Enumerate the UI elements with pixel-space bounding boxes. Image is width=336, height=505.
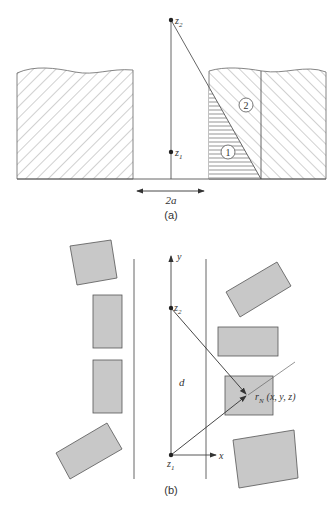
region-1-marker: 1 (221, 145, 235, 159)
block-left-bottom-tilted (56, 423, 122, 479)
caption-a: (a) (164, 209, 177, 221)
block-left-upper (93, 295, 122, 348)
block-left-top-tilted (70, 240, 117, 285)
y-axis-label: y (176, 251, 182, 262)
region-2-marker: 2 (239, 98, 253, 112)
point-z2-a (169, 18, 173, 22)
block-left-lower (93, 360, 122, 413)
point-z2-b (169, 306, 173, 310)
label-z2-b: z2 (173, 302, 182, 316)
svg-text:2: 2 (244, 100, 249, 111)
point-z1-b (169, 453, 173, 457)
point-z1-a (169, 150, 173, 154)
distance-label: d (179, 376, 185, 388)
block-right-top-tilted (226, 262, 291, 317)
block-right-upper (218, 327, 278, 356)
left-solid-block (17, 68, 133, 179)
label-z1-b: z1 (166, 458, 174, 472)
panel-b: y x z2 z1 d rN(x, y, z) (b) (56, 240, 298, 496)
x-axis-label: x (218, 450, 224, 461)
width-label: 2a (166, 194, 178, 206)
svg-text:1: 1 (226, 147, 231, 158)
panel-a: z2 z1 2 1 2a (a) (17, 15, 326, 221)
label-z1-a: z1 (174, 147, 182, 161)
block-right-bottom-tilted (233, 430, 298, 488)
caption-b: (b) (164, 484, 177, 496)
diagram-canvas: z2 z1 2 1 2a (a) (0, 0, 336, 505)
